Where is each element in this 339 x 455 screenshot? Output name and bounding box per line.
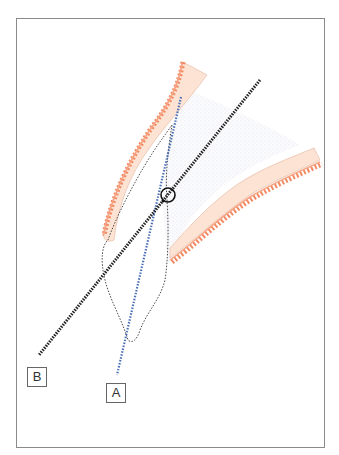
label-a: A	[106, 383, 126, 403]
diagram-canvas	[0, 0, 339, 455]
label-b: B	[27, 367, 47, 387]
axis-line-b	[39, 80, 260, 355]
